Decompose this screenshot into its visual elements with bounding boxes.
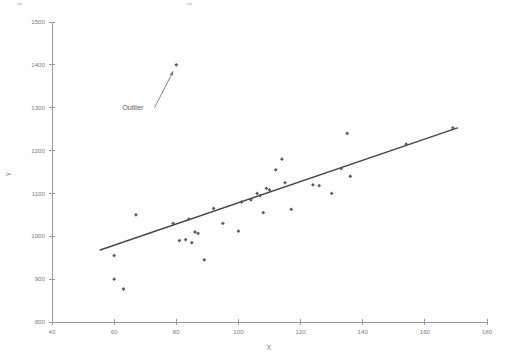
data-point	[311, 183, 315, 187]
data-point	[264, 186, 268, 190]
data-point	[212, 207, 216, 211]
data-points-group	[112, 63, 454, 291]
y-tick-label: 1000	[31, 232, 45, 239]
y-tick-label: 1200	[31, 147, 45, 154]
x-axis-title: X	[267, 344, 272, 351]
x-tick-label: 120	[295, 328, 306, 335]
data-point	[174, 63, 178, 67]
x-tick-label: 100	[233, 328, 244, 335]
y-tick-label: 900	[35, 275, 46, 282]
x-axis-ticks: 406080100120140160180	[49, 319, 493, 335]
data-point	[202, 258, 206, 262]
y-tick-label: 1400	[31, 61, 45, 68]
data-point	[177, 239, 181, 243]
data-point	[221, 222, 225, 226]
data-point	[255, 192, 259, 196]
data-point	[289, 207, 293, 211]
data-point	[345, 132, 349, 136]
data-point	[122, 287, 126, 291]
annotations-group: Outlier	[122, 71, 173, 112]
axes	[52, 22, 487, 322]
regression-line-group	[100, 128, 457, 250]
x-tick-label: 60	[111, 328, 118, 335]
data-point	[280, 157, 284, 161]
data-point	[283, 181, 287, 185]
annotation-arrow	[155, 71, 174, 107]
x-tick-label: 80	[173, 328, 180, 335]
x-tick-label: 140	[358, 328, 369, 335]
scatter-plot-figure: ▄ ▄ 800900100011001200130014001500 40608…	[0, 0, 509, 361]
data-point	[134, 213, 138, 217]
data-point	[112, 254, 116, 258]
x-tick-label: 180	[482, 328, 493, 335]
data-point	[317, 184, 321, 188]
plot-canvas: 800900100011001200130014001500 406080100…	[0, 0, 509, 361]
y-tick-label: 800	[35, 318, 46, 325]
data-point	[274, 168, 278, 172]
annotation-arrow-head	[170, 71, 173, 76]
data-point	[330, 192, 334, 196]
data-point	[348, 174, 352, 178]
x-tick-label: 160	[420, 328, 431, 335]
y-axis-title: Y	[5, 171, 12, 176]
y-tick-label: 1300	[31, 104, 45, 111]
data-point	[112, 277, 116, 281]
y-tick-label: 1500	[31, 18, 45, 25]
y-axis-ticks: 800900100011001200130014001500	[31, 18, 55, 325]
data-point	[184, 238, 188, 242]
data-point	[190, 241, 194, 245]
y-tick-label: 1100	[32, 190, 46, 197]
x-tick-label: 40	[49, 328, 56, 335]
data-point	[237, 229, 241, 233]
regression-line	[100, 128, 457, 250]
outlier-annotation-label: Outlier	[122, 103, 144, 112]
data-point	[261, 211, 265, 215]
